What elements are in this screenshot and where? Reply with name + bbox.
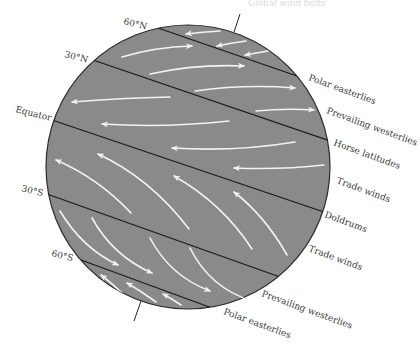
label-trade-winds-south: Trade winds xyxy=(307,243,364,272)
label-trade-winds-north: Trade winds xyxy=(335,175,392,204)
latitude-label-equator: Equator xyxy=(15,104,54,123)
latitude-label-60n: 60°N xyxy=(123,16,149,31)
latitude-label-30s: 30°S xyxy=(21,183,45,198)
rotation-axis-top xyxy=(234,14,240,32)
label-polar-easterlies-north: Polar easterlies xyxy=(307,72,377,106)
latitude-label-60s: 60°S xyxy=(51,248,75,263)
rotation-axis-bottom xyxy=(134,301,141,321)
wind-belts-diagram: Global wind belts xyxy=(0,0,420,344)
label-horse-latitudes: Horse latitudes xyxy=(332,137,402,171)
label-doldrums: Doldrums xyxy=(323,209,369,234)
label-polar-easterlies-south: Polar easterlies xyxy=(222,306,292,340)
latitude-label-30n: 30°N xyxy=(64,49,90,64)
header-ghost-text: Global wind belts xyxy=(248,0,326,8)
